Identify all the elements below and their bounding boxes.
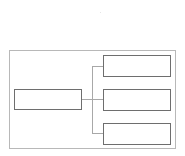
branch-connector-1 (92, 66, 103, 67)
stray-dot (100, 12, 101, 13)
trunk-connector (92, 66, 93, 134)
root-connector (82, 99, 92, 100)
child-node-2[interactable] (103, 89, 171, 111)
root-node[interactable] (14, 89, 82, 110)
branch-connector-2 (92, 99, 103, 100)
child-node-3[interactable] (103, 123, 171, 145)
branch-connector-3 (92, 133, 103, 134)
child-node-1[interactable] (103, 55, 171, 77)
